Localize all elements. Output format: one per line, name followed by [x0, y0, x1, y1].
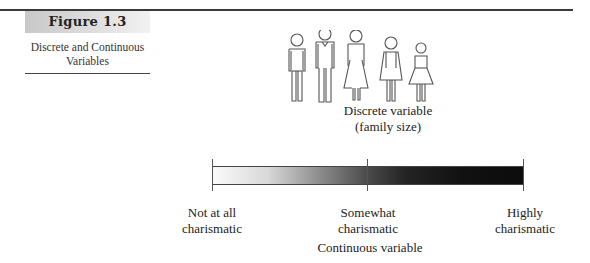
family-icons [285, 30, 445, 105]
woman-long-dress-icon [344, 30, 368, 100]
continuous-scale [210, 156, 526, 192]
scale-label-mid: Somewhat charismatic [313, 205, 423, 237]
tick-low [212, 159, 213, 191]
scale-label-high-line1: Highly [470, 205, 580, 221]
continuous-variable-label: Continuous variable [300, 240, 440, 256]
gradient-bar [212, 166, 524, 185]
discrete-label-line2: (family size) [318, 119, 458, 135]
scale-label-low-line2: charismatic [157, 221, 267, 237]
tick-high [523, 159, 524, 191]
scale-label-mid-line1: Somewhat [313, 205, 423, 221]
scale-label-mid-line2: charismatic [313, 221, 423, 237]
discrete-label-line1: Discrete variable [318, 103, 458, 119]
man-icon [289, 34, 305, 101]
woman-short-dress-icon [380, 37, 402, 101]
scale-label-low-line1: Not at all [157, 205, 267, 221]
scale-label-high: Highly charismatic [470, 205, 580, 237]
figure-label: Figure 1.3 [25, 14, 150, 29]
figure-caption-line2: Variables [25, 54, 150, 68]
girl-icon [409, 43, 433, 101]
caption-rule [25, 73, 150, 74]
tick-mid [367, 159, 368, 191]
discrete-variable-label: Discrete variable (family size) [318, 103, 458, 135]
scale-label-high-line2: charismatic [470, 221, 580, 237]
scale-label-low: Not at all charismatic [157, 205, 267, 237]
figure-caption: Discrete and Continuous Variables [25, 40, 150, 68]
figure-caption-line1: Discrete and Continuous [25, 40, 150, 54]
man-in-suit-icon [316, 30, 334, 102]
figure-label-box: Figure 1.3 [25, 11, 150, 33]
